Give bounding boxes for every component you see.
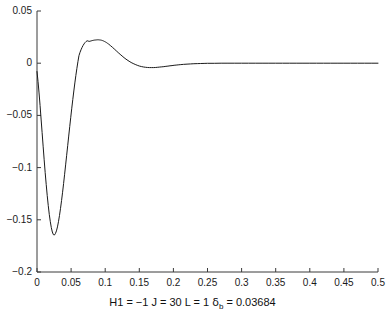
x-axis-label-prefix: H1 = −1 J = 30 L = 1 bbox=[109, 296, 212, 308]
data-series-line bbox=[37, 40, 378, 235]
y-tick-label: −0.1 bbox=[0, 163, 32, 173]
y-tick-label: 0.05 bbox=[0, 6, 32, 16]
y-axis-ticks bbox=[37, 11, 41, 272]
x-axis-label-suffix: = 0.03684 bbox=[223, 296, 275, 308]
x-tick-label: 0.5 bbox=[358, 278, 390, 288]
x-axis-ticks bbox=[37, 268, 378, 272]
x-axis-label: H1 = −1 J = 30 L = 1 δb = 0.03684 bbox=[0, 296, 385, 309]
delta-symbol: δ bbox=[212, 296, 219, 309]
y-tick-label: −0.15 bbox=[0, 215, 32, 225]
y-tick-label: −0.05 bbox=[0, 110, 32, 120]
y-tick-label: −0.2 bbox=[0, 267, 32, 277]
y-tick-label: 0 bbox=[0, 58, 32, 68]
